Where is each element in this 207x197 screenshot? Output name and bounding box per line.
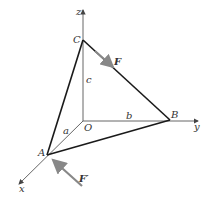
force-F-arrow (95, 51, 113, 67)
point-A-label: A (38, 148, 45, 158)
tetrahedron-force-diagram: z y x C B O A c b a F F′ (0, 0, 207, 197)
force-F-prime-label: F′ (79, 174, 89, 184)
point-B-label: B (171, 110, 178, 120)
z-axis-label: z (76, 7, 81, 17)
x-axis-label: x (19, 184, 25, 194)
force-F-label: F (114, 57, 121, 67)
dimension-b-label: b (126, 111, 132, 121)
point-O-label: O (84, 123, 92, 133)
y-axis-label: y (194, 122, 200, 132)
dimension-a-label: a (63, 126, 69, 136)
dimension-c-label: c (86, 75, 92, 85)
diagram-svg (0, 0, 207, 197)
edge-CA (47, 40, 83, 155)
force-F-prime-arrow (53, 160, 82, 186)
point-C-label: C (73, 35, 81, 45)
x-axis (19, 121, 83, 184)
